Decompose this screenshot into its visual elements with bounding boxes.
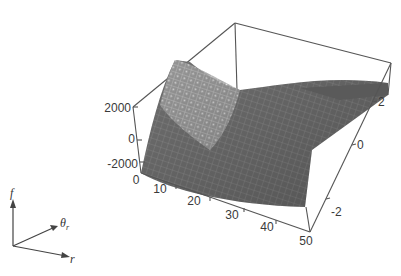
theta-tick-label: -2 (331, 205, 342, 219)
r-axis-label: r (70, 252, 75, 266)
theta-arrow-icon (50, 225, 58, 231)
z-tick-label: 0 (128, 132, 135, 146)
z-tick-label: -2000 (107, 157, 138, 171)
surface (141, 60, 388, 207)
theta-tick-label: 0 (357, 138, 364, 152)
z-tick-label: 2000 (104, 101, 131, 115)
surface-plot-3d: 2000 0 -2000 0 10 20 30 40 50 2 0 -2 f θ… (0, 0, 401, 276)
theta-axis-label: θr (60, 216, 70, 232)
f-axis-label: f (10, 186, 15, 200)
r-tick-label: 50 (299, 234, 313, 248)
r-tick-label: 40 (260, 220, 274, 234)
r-arrow-icon (61, 252, 70, 258)
r-tick-label: 10 (153, 182, 167, 196)
r-tick-label: 20 (187, 194, 201, 208)
r-tick-label: 0 (133, 173, 140, 187)
orientation-triad: f θr r (10, 186, 75, 266)
r-tick-label: 30 (225, 208, 239, 222)
f-arrow-icon (10, 199, 16, 208)
z-axis: 2000 0 -2000 (104, 101, 145, 171)
theta-tick-label: 2 (378, 95, 385, 109)
